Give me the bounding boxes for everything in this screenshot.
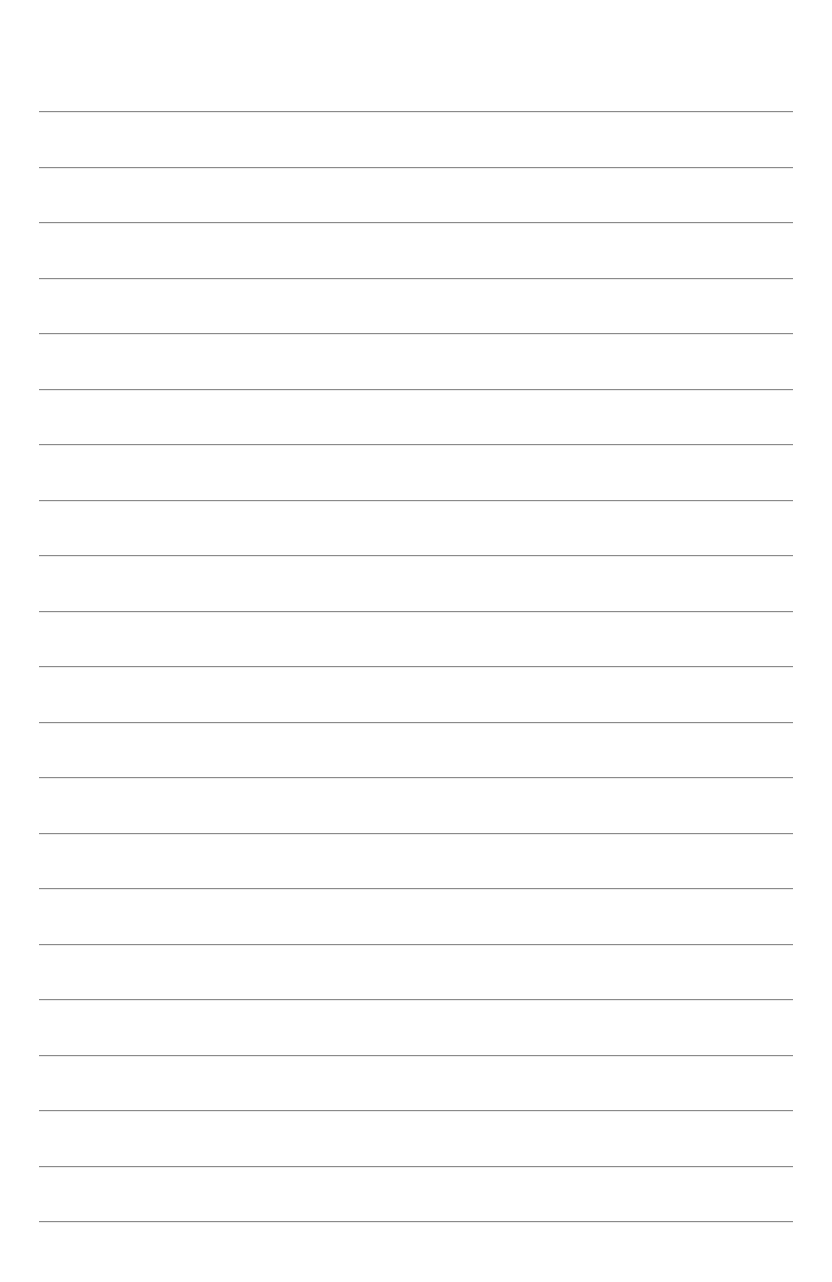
ruled-line: [39, 722, 793, 723]
ruled-line: [39, 1166, 793, 1167]
ruled-line: [39, 777, 793, 778]
ruled-line: [39, 833, 793, 834]
ruled-line: [39, 111, 793, 112]
ruled-line: [39, 222, 793, 223]
ruled-line: [39, 1221, 793, 1222]
ruled-line: [39, 666, 793, 667]
ruled-line: [39, 944, 793, 945]
ruled-line: [39, 888, 793, 889]
ruled-line: [39, 1055, 793, 1056]
ruled-line: [39, 389, 793, 390]
ruled-line: [39, 1110, 793, 1111]
ruled-line: [39, 333, 793, 334]
ruled-line: [39, 278, 793, 279]
ruled-line: [39, 555, 793, 556]
ruled-line: [39, 444, 793, 445]
ruled-line: [39, 611, 793, 612]
lined-page: [0, 0, 832, 1282]
ruled-line: [39, 999, 793, 1000]
ruled-line: [39, 167, 793, 168]
ruled-line: [39, 500, 793, 501]
